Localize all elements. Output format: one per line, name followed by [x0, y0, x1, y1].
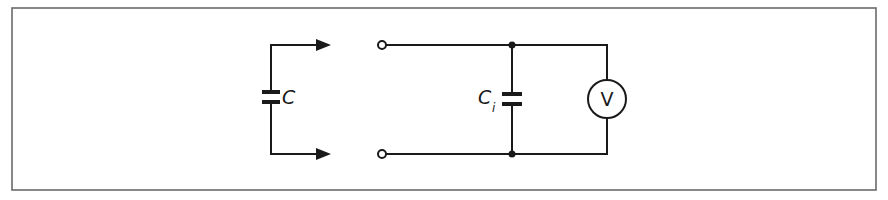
- diagram-frame: [12, 8, 876, 190]
- arrow-right-icon: [316, 148, 331, 160]
- open-terminal-top: [378, 41, 386, 49]
- measuring-circuit-group: C i V: [378, 41, 626, 158]
- source-bottom-wire: [271, 103, 318, 154]
- source-capacitor-group: C: [262, 39, 331, 160]
- open-terminal-bottom: [378, 150, 386, 158]
- capacitor-c-label: C: [282, 86, 296, 108]
- top-rail-wire: [386, 45, 607, 80]
- arrow-right-icon: [316, 39, 331, 51]
- voltmeter-label: V: [601, 88, 614, 110]
- bottom-rail-wire: [386, 118, 607, 154]
- circuit-diagram: C C i V: [0, 0, 888, 200]
- capacitor-icon: [502, 92, 522, 106]
- capacitor-ci-label: C: [478, 86, 492, 108]
- source-top-wire: [271, 45, 318, 91]
- capacitor-icon: [262, 90, 280, 104]
- capacitor-ci-subscript: i: [492, 101, 496, 115]
- voltmeter-icon: V: [588, 80, 626, 118]
